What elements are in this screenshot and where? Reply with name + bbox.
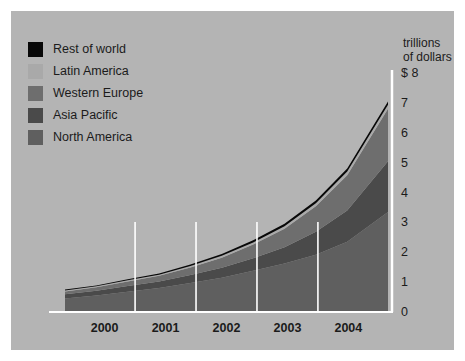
y-tick-label: 5: [401, 157, 408, 170]
y-tick-label: 4: [401, 187, 408, 200]
legend-swatch-north-america: [28, 130, 43, 145]
y-axis-unit-caption: trillions of dollars: [403, 36, 452, 64]
y-tick-label: 7: [401, 97, 408, 110]
x-tick-label-2001: 2001: [141, 322, 191, 335]
legend-item-north-america: North America: [28, 126, 203, 148]
chart-legend: Rest of world Latin America Western Euro…: [28, 38, 203, 148]
y-tick-label: 1: [401, 276, 408, 289]
legend-swatch-latin-america: [28, 64, 43, 79]
x-tick-label-2002: 2002: [202, 322, 252, 335]
x-tick-label-2004: 2004: [323, 322, 373, 335]
x-tick-label-2003: 2003: [262, 322, 312, 335]
legend-swatch-asia-pacific: [28, 108, 43, 123]
legend-item-western-europe: Western Europe: [28, 82, 203, 104]
x-tick-label-2000: 2000: [80, 322, 130, 335]
legend-label-latin-america: Latin America: [53, 65, 129, 78]
legend-label-western-europe: Western Europe: [53, 87, 143, 100]
y-tick-label: 2: [401, 246, 408, 259]
y-tick-label: 3: [401, 216, 408, 229]
y-tick-label: $ 8: [401, 67, 418, 80]
y-axis-unit-line-1: trillions: [403, 36, 452, 50]
chart-panel: Rest of world Latin America Western Euro…: [11, 11, 454, 350]
y-axis-unit-line-2: of dollars: [403, 50, 452, 64]
chart-figure: Rest of world Latin America Western Euro…: [0, 0, 465, 361]
y-tick-label: 0: [401, 306, 408, 319]
legend-item-asia-pacific: Asia Pacific: [28, 104, 203, 126]
legend-swatch-western-europe: [28, 86, 43, 101]
legend-label-rest-of-world: Rest of world: [53, 43, 126, 56]
legend-label-north-america: North America: [53, 131, 132, 144]
legend-label-asia-pacific: Asia Pacific: [53, 109, 118, 122]
legend-item-rest-of-world: Rest of world: [28, 38, 203, 60]
legend-item-latin-america: Latin America: [28, 60, 203, 82]
y-tick-label: 6: [401, 127, 408, 140]
legend-swatch-rest-of-world: [28, 42, 43, 57]
